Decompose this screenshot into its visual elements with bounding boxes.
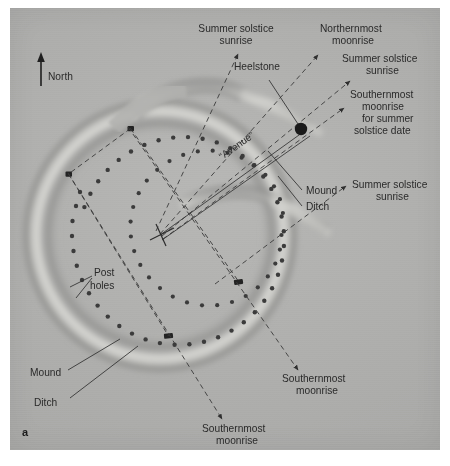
svg-text:Summer solstice: Summer solstice [342,53,418,64]
label-summer-solstice-sunrise-right: Summer solstice sunrise [352,179,428,202]
label-southernmost-moonrise-bottom: Southernmost moonrise [202,423,266,446]
svg-text:Summer solstice: Summer solstice [352,179,428,190]
label-mound-right: Mound [306,185,337,196]
svg-text:moonrise: moonrise [362,101,404,112]
label-southernmost-moonrise-for-summer-solstice: Southernmost moonrise for summer solstic… [350,89,414,136]
svg-text:solstice date: solstice date [354,125,411,136]
svg-text:sunrise: sunrise [366,65,399,76]
figure-stonehenge-alignments: North Summer solstice sunrise Heelstone … [0,0,450,466]
svg-text:Southernmost: Southernmost [350,89,414,100]
svg-text:moonrise: moonrise [332,35,374,46]
diagram-overlay: North Summer solstice sunrise Heelstone … [10,8,440,450]
svg-text:for summer: for summer [362,113,414,124]
svg-text:Post: Post [94,267,115,278]
north-arrow-icon [37,52,45,86]
svg-text:holes: holes [90,280,114,291]
svg-text:Southernmost: Southernmost [282,373,346,384]
label-ditch-right: Ditch [306,201,329,212]
svg-text:Summer solstice: Summer solstice [198,23,274,34]
plan-photograph-panel: North Summer solstice sunrise Heelstone … [10,8,440,450]
svg-text:Southernmost: Southernmost [202,423,266,434]
label-northernmost-moonrise: Northernmost moonrise [320,23,382,46]
label-ditch-left: Ditch [34,397,57,408]
label-north: North [48,71,73,82]
label-heelstone: Heelstone [234,61,280,72]
svg-text:sunrise: sunrise [220,35,253,46]
label-summer-solstice-sunrise-upper-right: Summer solstice sunrise [342,53,418,76]
svg-text:moonrise: moonrise [216,435,258,446]
label-southernmost-moonrise-right: Southernmost moonrise [282,373,346,396]
svg-text:moonrise: moonrise [296,385,338,396]
heelstone-dot [295,123,307,135]
label-summer-solstice-sunrise-top: Summer solstice sunrise [198,23,274,46]
panel-letter: a [22,426,29,438]
svg-text:Northernmost: Northernmost [320,23,382,34]
label-mound-left: Mound [30,367,61,378]
svg-text:sunrise: sunrise [376,191,409,202]
